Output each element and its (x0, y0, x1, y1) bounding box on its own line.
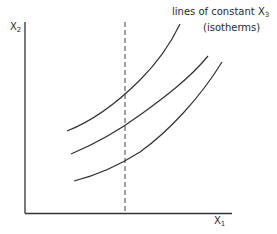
y-axis-label-base: X (10, 21, 17, 32)
isotherm-curve-2 (71, 56, 208, 154)
annotation-text: lines of constant X (172, 6, 265, 17)
x-axis-label: X1 (214, 216, 225, 228)
x-axis-label-base: X (214, 215, 221, 226)
isotherm-annotation-line2: (isotherms) (203, 23, 260, 33)
isotherm-curve-1 (67, 24, 180, 131)
y-axis-label-subscript: 2 (17, 26, 21, 34)
annotation-isotherms-text: (isotherms) (203, 22, 260, 33)
x-axis-label-subscript: 1 (221, 220, 225, 228)
isotherm-annotation-line1: lines of constant X3 (172, 7, 269, 19)
diagram-canvas (0, 0, 277, 234)
annotation-subscript: 3 (265, 11, 269, 19)
isotherm-curve-3 (74, 62, 222, 181)
y-axis-label: X2 (10, 22, 21, 34)
